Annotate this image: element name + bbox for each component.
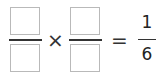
fraction1-numerator-box[interactable]	[10, 7, 40, 35]
result-denominator: 6	[137, 46, 157, 63]
fraction1-denominator-box[interactable]	[10, 44, 40, 72]
result-bar	[138, 39, 156, 40]
equals-sign: =	[111, 30, 128, 50]
fraction2-denominator-box[interactable]	[70, 44, 100, 72]
result-numerator: 1	[137, 14, 157, 31]
fraction2-bar	[69, 39, 102, 41]
fraction2-numerator-box[interactable]	[70, 7, 100, 35]
fraction1-bar	[9, 39, 42, 41]
multiply-operator: ×	[47, 30, 64, 50]
